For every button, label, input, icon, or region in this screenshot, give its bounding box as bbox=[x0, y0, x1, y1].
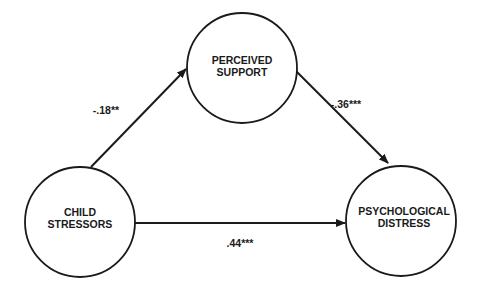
node-label-psychological-distress-line1: PSYCHOLOGICAL bbox=[358, 205, 450, 217]
edge-support-to-distress: -.36*** bbox=[295, 70, 388, 163]
arrow-child-to-support bbox=[91, 69, 186, 167]
coefficient-child-to-support: -.18** bbox=[93, 104, 120, 116]
edge-child-to-distress: .44*** bbox=[135, 223, 345, 249]
node-label-psychological-distress-line2: DISTRESS bbox=[378, 217, 431, 229]
node-label-perceived-support-line1: PERCEIVED bbox=[212, 54, 273, 66]
path-diagram: -.18** -.36*** .44*** PERCEIVED SUPPORT … bbox=[0, 0, 477, 290]
node-label-child-stressors-line2: STRESSORS bbox=[48, 218, 113, 230]
node-perceived-support: PERCEIVED SUPPORT bbox=[187, 13, 297, 123]
node-label-perceived-support-line2: SUPPORT bbox=[217, 66, 268, 78]
edge-child-to-support: -.18** bbox=[91, 69, 186, 167]
node-label-child-stressors-line1: CHILD bbox=[64, 206, 96, 218]
coefficient-child-to-distress: .44*** bbox=[227, 237, 255, 249]
node-psychological-distress: PSYCHOLOGICAL DISTRESS bbox=[346, 166, 456, 276]
arrow-support-to-distress bbox=[295, 70, 388, 163]
coefficient-support-to-distress: -.36*** bbox=[331, 98, 362, 110]
node-child-stressors: CHILD STRESSORS bbox=[25, 167, 135, 277]
